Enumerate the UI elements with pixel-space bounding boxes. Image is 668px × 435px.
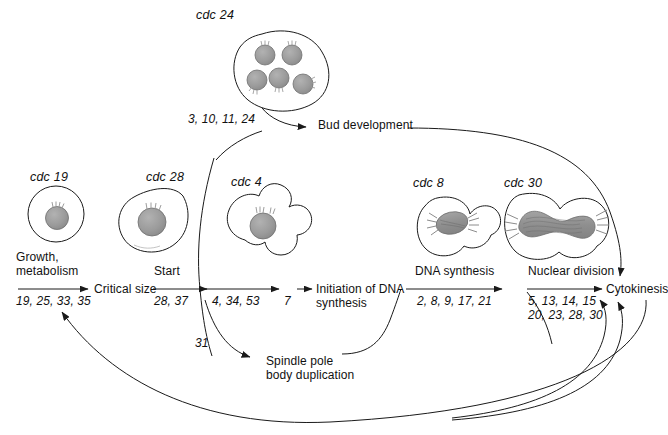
bud-dev-upstream-connector [216, 131, 262, 160]
stage-start: Start [154, 265, 180, 278]
stage-bud-development: Bud development [318, 119, 413, 132]
genes-dna-synthesis: 2, 8, 9, 17, 21 [417, 295, 492, 308]
stage-nuclear-division: Nuclear division [528, 265, 614, 278]
genes-cdc24: 3, 10, 11, 24 [188, 113, 255, 126]
genes-growth: 19, 25, 33, 35 [16, 295, 91, 308]
genes-nuclear-division-2: 20, 23, 28, 30 [528, 309, 603, 322]
stage-init-dna-line1: Initiation of DNA [316, 283, 404, 296]
genes-seven: 7 [284, 295, 291, 308]
cell-cdc30 [505, 193, 609, 259]
cell-cdc8 [417, 197, 500, 256]
stage-spindle-pole-line1: Spindle pole [266, 355, 333, 368]
genes-nuclear-division-1: 5, 13, 14, 15 [528, 295, 596, 308]
stage-growth-line1: Growth, [16, 251, 59, 265]
label-cdc4: cdc 4 [231, 175, 262, 189]
stage-spindle-pole-line2: body duplication [266, 369, 354, 382]
label-cdc30: cdc 30 [504, 176, 542, 190]
label-cdc19: cdc 19 [30, 170, 68, 184]
stage-critical-size: Critical size [94, 283, 157, 296]
cell-cdc19 [28, 186, 84, 242]
cell-cdc24 [234, 31, 329, 111]
label-cdc28: cdc 28 [146, 170, 184, 184]
start-branch-curve [199, 158, 214, 356]
cell-cdc4 [227, 184, 311, 255]
label-cdc8: cdc 8 [413, 176, 444, 190]
label-cdc24: cdc 24 [196, 8, 234, 22]
genes-bud-emergence: 4, 34, 53 [212, 295, 260, 308]
stage-dna-synthesis: DNA synthesis [415, 265, 494, 278]
genes-spindle-pole: 31 [195, 337, 209, 350]
stage-init-dna-line2: synthesis [316, 297, 367, 310]
stage-growth-line2: metabolism [16, 265, 78, 279]
cell-cdc28 [119, 189, 188, 253]
stage-cytokinesis: Cytokinesis [606, 283, 668, 296]
genes-start: 28, 37 [154, 295, 188, 308]
